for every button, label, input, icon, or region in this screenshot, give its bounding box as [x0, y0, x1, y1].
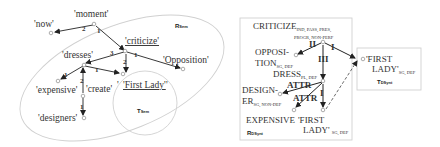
node-criticize — [321, 40, 325, 44]
node-t-first-lady — [361, 57, 365, 61]
label-create: 'create' — [86, 84, 112, 94]
node-first-lady — [121, 72, 125, 76]
target-sem-label: TSem — [137, 108, 150, 114]
node-dresses — [82, 63, 86, 67]
node-opposition — [294, 53, 298, 57]
node-moment — [92, 22, 96, 26]
label-first-lady-1: 'FIRST — [298, 115, 325, 125]
edge-label-moment-now: 2 — [82, 25, 86, 33]
label-first-lady-2: LADY'SG, DEF — [303, 125, 349, 136]
edge-label-create-designers: 1 — [80, 103, 84, 111]
label-expensive: 'expensive' — [36, 85, 78, 95]
node-expensive — [292, 108, 296, 112]
region-dsynt-label: RDSynt — [247, 130, 264, 136]
label-moment: 'moment' — [74, 9, 109, 19]
label-t-first-lady-2: LADY'SG, DEF — [372, 64, 416, 76]
node-create — [81, 94, 85, 98]
edge-label-dresses-firstlady: 1 — [95, 66, 99, 74]
edge-label-criticize-dress: III — [318, 54, 329, 64]
region-sem-label: RSem — [175, 23, 188, 29]
node-dress — [321, 79, 325, 83]
target-dsynt-label: TDSynt — [377, 79, 393, 85]
edge-label-criticize-dresses: 3 — [110, 49, 114, 57]
node-opposition — [181, 67, 185, 71]
node-now — [49, 31, 53, 35]
semantic-structure: 'moment' 'now' 'criticize' 'dresses' 'Op… — [2, 0, 241, 147]
edge-moment-now — [55, 25, 93, 32]
label-opposition-1: OPPOSI- — [255, 47, 289, 57]
label-designers: 'designers' — [38, 113, 78, 123]
edge-label-criticize-opposition: 1 — [134, 51, 138, 59]
edge-label-dress-expensive: ATTR — [293, 93, 318, 103]
label-opposition: 'Opposition' — [163, 55, 209, 65]
label-designer-2: ERSG, NON-DEF — [242, 96, 282, 108]
edge-label-dresses-expensive: 1 — [64, 71, 68, 79]
label-criticize: 'criticize' — [125, 36, 159, 46]
label-first-lady: 'First Lady' — [123, 80, 166, 90]
edge-label-criticize-firstlady: 2 — [123, 58, 127, 66]
label-dresses: 'dresses' — [62, 50, 93, 60]
node-designer — [278, 92, 282, 96]
node-expensive — [56, 79, 60, 83]
edge-label-create-dresses: 2 — [80, 77, 84, 85]
label-first-lady-open: ' — [117, 80, 119, 90]
edge-label-dress-designer: ATTR — [287, 80, 312, 90]
label-criticize: CRITICIZEIND, PASS, PRES, — [253, 21, 331, 33]
label-t-first-lady-1: 'FIRST — [366, 54, 393, 64]
node-first-lady — [321, 108, 325, 112]
dsynt-structure: CRITICIZEIND, PASS, PRES, PROGR, NON-PER… — [240, 18, 421, 140]
label-expensive: EXPENSIVE — [246, 115, 296, 125]
edge-criticize-firstlady — [325, 43, 355, 58]
label-first-lady-close: ' — [166, 80, 168, 90]
edge-label-criticize-firstlady: I — [331, 42, 335, 52]
node-criticize — [123, 49, 127, 53]
node-designers — [82, 116, 86, 120]
edge-dresses-firstlady — [85, 66, 119, 73]
label-now: 'now' — [34, 19, 54, 29]
edge-label-moment-criticize: 1 — [97, 27, 101, 35]
edge-label-criticize-opposition: II — [309, 39, 317, 49]
label-designer-1: DESIGN- — [242, 85, 278, 95]
diagram-canvas: 'moment' 'now' 'criticize' 'dresses' 'Op… — [0, 0, 440, 147]
edge-label-dress-firstlady: I — [320, 88, 324, 98]
